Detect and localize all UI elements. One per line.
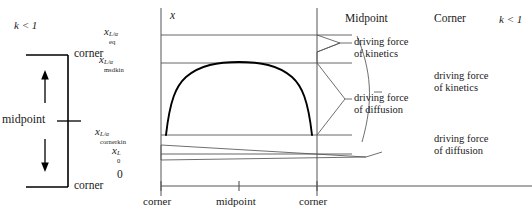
header-corner: Corner xyxy=(434,12,466,25)
header-midpoint: Midpoint xyxy=(345,12,388,25)
y-level-sub-msdkin: msdkin xyxy=(104,66,124,73)
y-level-label-msdkin: xL/αmsdkin xyxy=(99,53,104,65)
y-level-sub-eq: eq xyxy=(109,38,115,45)
annotation-corner-diffusion: driving force of diffusion xyxy=(434,133,489,157)
left-label-midpoint: midpoint xyxy=(2,113,45,126)
y-level-sup-eq: L/α xyxy=(109,30,118,37)
annotation-midpoint-diffusion: driving force of diffusion xyxy=(354,92,409,116)
y-level-label-eq: xL/αeq xyxy=(104,25,109,37)
arrow-up-icon xyxy=(41,70,49,103)
annotation-corner-kinetics: driving force of kinetics xyxy=(434,70,489,94)
header-condition-label: k < 1 xyxy=(499,13,522,25)
x-tick-label-midpoint: midpoint xyxy=(216,195,256,207)
y-level-label-cornerkin: xL/αcornerkin xyxy=(95,125,100,137)
annotation-midpoint-kinetics-line1: driving force xyxy=(354,36,409,48)
left-label-corner-bottom: corner xyxy=(74,179,103,192)
y-level-sub-x0: 0 xyxy=(117,157,120,164)
bracket-midpoint-kinetics xyxy=(317,35,352,63)
y-axis-zero-label: 0 xyxy=(117,168,123,181)
annotation-corner-kinetics-line1: driving force xyxy=(434,70,489,82)
annotation-corner-diffusion-line2: of diffusion xyxy=(434,145,489,157)
x-tick-label-corner-right: corner xyxy=(299,195,327,207)
x-tick-label-corner-left: corner xyxy=(143,195,171,207)
annotation-midpoint-diffusion-line2: of diffusion xyxy=(354,104,409,116)
y-level-sup-x0: L xyxy=(117,149,121,156)
y-level-label-x0: xL0 xyxy=(112,144,117,156)
bracket-midpoint-diffusion xyxy=(317,63,352,135)
annotation-midpoint-kinetics-line2: of kinetics xyxy=(354,48,409,60)
bracket-corner-diffusion xyxy=(161,145,382,160)
left-condition-label: k < 1 xyxy=(14,19,37,31)
annotation-corner-kinetics-line2: of kinetics xyxy=(434,82,489,94)
annotation-midpoint-kinetics: driving force of kinetics xyxy=(354,36,409,60)
y-level-sup-msdkin: L/α xyxy=(104,58,113,65)
profile-curve xyxy=(166,62,312,135)
annotation-midpoint-diffusion-line1: driving force xyxy=(354,92,409,104)
annotation-corner-diffusion-line1: driving force xyxy=(434,133,489,145)
level-gridlines xyxy=(161,35,352,154)
plot-axes xyxy=(161,8,532,196)
y-axis-symbol: x xyxy=(170,9,175,22)
arrow-down-icon xyxy=(41,139,49,172)
y-level-sup-cornerkin: L/α xyxy=(100,130,109,137)
figure-root: k < 1 corner midpoint corner x xL/αeq xL… xyxy=(0,0,532,218)
